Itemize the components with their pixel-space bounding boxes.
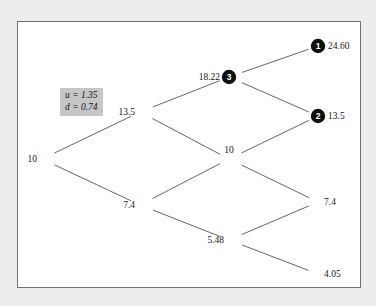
node-value-label: 4.05 <box>324 269 341 279</box>
lattice-edge <box>152 164 220 199</box>
node-value-label: 24.60 <box>328 41 350 51</box>
lattice-edge <box>242 165 309 198</box>
path-marker-1: 1 <box>311 39 325 53</box>
node-value-label: 10 <box>28 154 38 164</box>
binomial-lattice-diagram: 1013.57.418.22105.4824.6013.57.44.05 312 <box>18 22 362 289</box>
node-value-label: 10 <box>224 145 234 155</box>
lattice-edge <box>153 210 220 236</box>
node-value-label: 7.4 <box>324 197 336 207</box>
parameters-box: u = 1.35 d = 0.74 <box>60 88 103 116</box>
lattice-edge <box>242 206 309 235</box>
lattice-edge <box>55 116 131 153</box>
lattice-edge <box>153 81 220 107</box>
node-value-label: 5.48 <box>207 235 224 245</box>
lattice-edge <box>242 83 309 112</box>
lattice-edge <box>55 165 131 201</box>
path-marker-3: 3 <box>222 70 236 84</box>
marker-number: 2 <box>316 111 321 121</box>
lattice-edge <box>242 120 309 153</box>
up-factor-label: u = 1.35 <box>65 90 98 102</box>
down-factor-label: d = 0.74 <box>65 102 98 114</box>
lattice-edge <box>242 245 309 270</box>
lattice-edge <box>152 119 220 155</box>
lattice-path-markers: 312 <box>222 39 325 123</box>
path-marker-2: 2 <box>311 109 325 123</box>
figure-panel: 1013.57.418.22105.4824.6013.57.44.05 312… <box>17 21 361 288</box>
node-value-label: 7.4 <box>123 200 135 210</box>
lattice-edges <box>55 49 309 270</box>
marker-number: 1 <box>316 41 321 51</box>
lattice-edge <box>242 49 308 72</box>
node-value-label: 18.22 <box>199 72 221 82</box>
marker-number: 3 <box>227 72 232 82</box>
node-value-label: 13.5 <box>118 107 135 117</box>
node-value-label: 13.5 <box>328 111 345 121</box>
lattice-node-labels: 1013.57.418.22105.4824.6013.57.44.05 <box>28 41 350 279</box>
